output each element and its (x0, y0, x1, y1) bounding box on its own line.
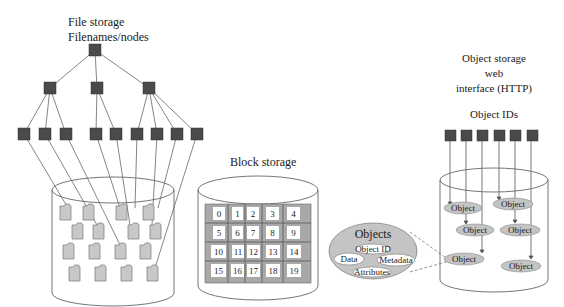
object-id-icon (510, 130, 521, 141)
leaf-node-icon (60, 128, 72, 140)
file-icon (83, 204, 94, 220)
object-id-icon (445, 130, 456, 141)
file-icon (143, 204, 154, 220)
leaf-node-icon (131, 128, 143, 140)
file-icon (115, 243, 126, 259)
object-id-text: Object ID (355, 244, 391, 254)
file-icon (121, 265, 132, 281)
object-id-nodes (445, 130, 538, 141)
object-storage-title: Object storage (462, 52, 526, 64)
object-id-icon (461, 130, 472, 141)
metadata-text: Metadata (379, 255, 412, 265)
block-cell: 4 (291, 209, 296, 219)
file-icon (72, 223, 83, 239)
block-cell: 16 (233, 266, 243, 276)
leaf-node-icon (90, 128, 102, 140)
block-cell: 1 (235, 209, 240, 219)
object-id-icon (494, 130, 505, 141)
block-cell: 15 (214, 266, 224, 276)
file-icon (150, 223, 161, 239)
block-cell: 0 (217, 209, 222, 219)
file-icon (63, 243, 74, 259)
block-cell: 3 (270, 209, 275, 219)
block-cell: 10 (214, 247, 224, 257)
objects-detail-bubble: Objects Object ID Data Metadata Attribut… (329, 223, 446, 279)
leaf-node-icon (171, 128, 183, 140)
block-cell: 8 (270, 228, 275, 238)
object-label: Object (463, 225, 487, 235)
block-cell: 6 (235, 228, 240, 238)
file-icon (69, 265, 80, 281)
file-storage-section: File storage Filenames/nodes (18, 15, 203, 306)
block-cell: 7 (251, 228, 256, 238)
file-icon (60, 204, 71, 220)
block-cell: 2 (251, 209, 256, 219)
object-label: Object (451, 203, 475, 213)
file-storage-title: File storage (68, 15, 124, 29)
object-storage-web: web (485, 67, 504, 79)
dir-node-icon (91, 82, 103, 94)
object-label: Object (452, 254, 476, 264)
file-icons (60, 204, 161, 281)
dir-node-icon (143, 82, 155, 94)
block-cell: 13 (269, 247, 279, 257)
block-cell: 17 (249, 266, 259, 276)
objects-title: Objects (355, 227, 392, 241)
leaf-node-icon (18, 128, 30, 140)
object-label: Object (508, 225, 532, 235)
object-storage-http: interface (HTTP) (456, 82, 532, 95)
object-id-icon (477, 130, 488, 141)
block-cell: 18 (269, 266, 279, 276)
block-cell: 19 (290, 266, 300, 276)
object-ids-label: Object IDs (470, 108, 518, 120)
block-cell: 12 (249, 247, 258, 257)
dir-node-icon (44, 82, 56, 94)
object-id-icon (527, 130, 538, 141)
file-icon (95, 265, 106, 281)
object-storage-section: Object storage web interface (HTTP) Obje… (440, 52, 548, 292)
block-cell: 9 (291, 228, 296, 238)
block-storage-section: Block storage 0 1 2 3 (198, 155, 318, 300)
file-icon (140, 243, 151, 259)
object-label: Object (501, 199, 525, 209)
leaf-node-icon (110, 128, 122, 140)
storage-types-diagram: File storage Filenames/nodes (0, 0, 564, 307)
file-storage-cylinder (52, 177, 174, 306)
file-icon (89, 243, 100, 259)
root-node-icon (89, 44, 101, 56)
block-cell: 14 (290, 247, 300, 257)
block-storage-title: Block storage (230, 155, 296, 169)
file-icon (147, 265, 158, 281)
block-cell: 11 (234, 247, 243, 257)
block-cell: 5 (217, 228, 222, 238)
attributes-text: Attributes (354, 267, 390, 277)
leaf-node-icon (191, 128, 203, 140)
object-label: Object (509, 261, 533, 271)
file-storage-subtitle: Filenames/nodes (68, 30, 149, 44)
leaf-node-icon (39, 128, 51, 140)
file-icon (116, 204, 127, 220)
file-icon (128, 223, 139, 239)
leaf-node-icon (151, 128, 163, 140)
file-icon (93, 223, 104, 239)
data-text: Data (341, 254, 358, 264)
